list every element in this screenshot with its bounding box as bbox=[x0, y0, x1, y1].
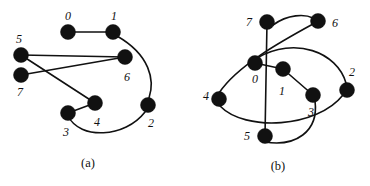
figure-container: 0 1 5 6 7 4 2 3 (a) bbox=[0, 0, 370, 186]
node-2 bbox=[141, 98, 156, 113]
node-7 bbox=[260, 15, 275, 30]
edge-7-6 bbox=[273, 16, 313, 25]
edge-5-6 bbox=[21, 55, 125, 57]
node-label-6: 6 bbox=[124, 71, 130, 83]
graph-a-edges bbox=[21, 32, 151, 133]
node-1 bbox=[276, 62, 291, 77]
graph-panel-b: 7 6 0 1 2 4 3 5 (b) bbox=[185, 0, 370, 186]
node-4 bbox=[212, 92, 227, 107]
node-label-1: 1 bbox=[279, 85, 285, 97]
node-label-3: 3 bbox=[308, 106, 314, 118]
graph-panel-a: 0 1 5 6 7 4 2 3 (a) bbox=[0, 0, 185, 186]
node-label-2: 2 bbox=[148, 117, 154, 129]
node-label-7: 7 bbox=[246, 16, 252, 28]
edge-7-5 bbox=[265, 22, 267, 136]
node-label-0: 0 bbox=[252, 73, 258, 85]
node-5 bbox=[258, 129, 273, 144]
node-label-5: 5 bbox=[16, 33, 22, 45]
graph-b-nodes bbox=[212, 14, 355, 144]
node-7 bbox=[14, 68, 29, 83]
node-1 bbox=[106, 25, 121, 40]
node-label-2: 2 bbox=[349, 66, 355, 78]
node-3 bbox=[61, 106, 76, 121]
node-0 bbox=[61, 25, 76, 40]
node-label-7: 7 bbox=[17, 86, 23, 98]
node-label-4: 4 bbox=[94, 116, 100, 128]
node-6 bbox=[118, 50, 133, 65]
node-label-3: 3 bbox=[63, 126, 69, 138]
node-0 bbox=[248, 56, 263, 71]
edge-0-2 bbox=[257, 48, 346, 83]
node-6 bbox=[311, 14, 326, 29]
node-label-4: 4 bbox=[203, 90, 209, 102]
node-4 bbox=[88, 96, 103, 111]
edge-1-2 bbox=[117, 36, 151, 98]
node-label-1: 1 bbox=[111, 10, 117, 22]
node-label-0: 0 bbox=[65, 10, 71, 22]
node-label-5: 5 bbox=[244, 130, 250, 142]
node-5 bbox=[14, 48, 29, 63]
edge-5-4 bbox=[21, 55, 95, 103]
panel-caption-a: (a) bbox=[81, 156, 95, 171]
node-label-6: 6 bbox=[332, 17, 338, 29]
node-3 bbox=[306, 88, 321, 103]
node-2 bbox=[340, 83, 355, 98]
graph-b-edges bbox=[219, 16, 346, 143]
edge-2-4 bbox=[220, 95, 343, 123]
panel-caption-b: (b) bbox=[271, 159, 286, 174]
edge-3-2 bbox=[68, 112, 145, 133]
